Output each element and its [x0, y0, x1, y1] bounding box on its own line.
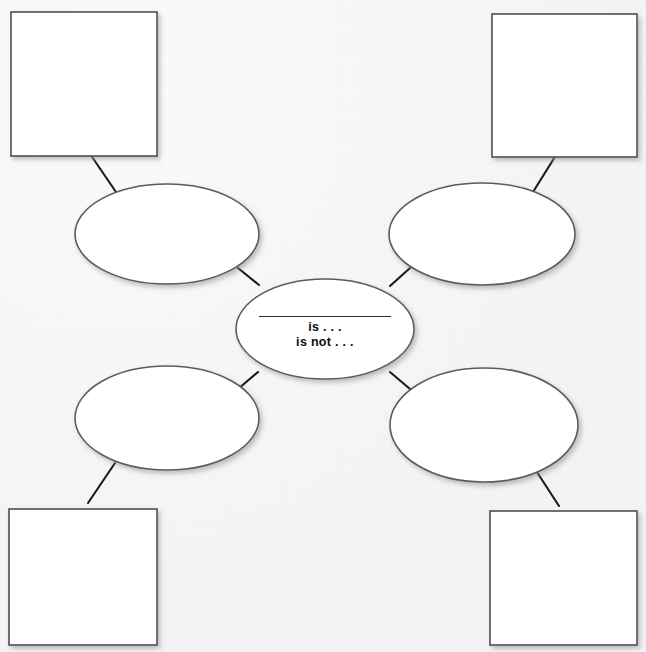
box-bottom-left[interactable]: [9, 509, 157, 645]
ellipse-bottom-right[interactable]: [390, 368, 578, 482]
connector-ellipse-bottom-left-to-box-bottom-left: [88, 463, 115, 503]
ellipse-bottom-left[interactable]: [75, 366, 259, 470]
connector-ellipse-top-right-to-box-top-right: [533, 152, 558, 192]
worksheet-canvas: is . . . is not . . .: [0, 0, 646, 652]
ellipse-top-right[interactable]: [389, 183, 575, 285]
connector-ellipse-top-left-to-box-top-left: [88, 151, 116, 192]
connector-center-to-ellipse-top-left: [238, 268, 259, 285]
connector-center-to-ellipse-top-right: [390, 268, 410, 286]
box-top-right[interactable]: [492, 14, 637, 157]
box-top-left[interactable]: [11, 12, 157, 156]
center-concept-ellipse[interactable]: [236, 279, 414, 379]
graphic-organizer-diagram: [0, 0, 646, 652]
box-bottom-right[interactable]: [490, 511, 637, 645]
ellipse-top-left[interactable]: [75, 184, 259, 284]
connector-center-to-ellipse-bottom-right: [390, 372, 410, 389]
